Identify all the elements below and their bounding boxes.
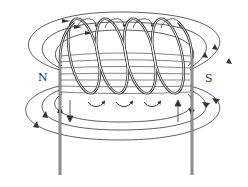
coil-turn-2 — [90, 16, 133, 96]
arrow-icon — [202, 52, 208, 58]
arrow-icon — [212, 44, 218, 50]
solenoid-diagram — [0, 0, 248, 187]
coil-turn-3 — [118, 16, 161, 96]
arrow-icon — [226, 58, 232, 64]
left-lead-wire — [60, 22, 74, 175]
arrow-icon — [62, 19, 70, 23]
lead-wire-highlight — [60, 22, 192, 175]
arrow-up-icon — [175, 100, 181, 106]
arrow-down-icon — [67, 116, 73, 122]
field-line-lower-inner — [55, 94, 193, 122]
south-pole-label: S — [205, 73, 213, 84]
north-pole-label: N — [38, 72, 48, 83]
lead-wires — [60, 22, 192, 175]
arrow-icon — [202, 102, 210, 108]
arrow-icon — [33, 121, 39, 128]
field-line-lower-mid — [42, 90, 206, 130]
bottom-loop-arrows — [88, 102, 160, 107]
arrow-icon — [42, 111, 48, 118]
